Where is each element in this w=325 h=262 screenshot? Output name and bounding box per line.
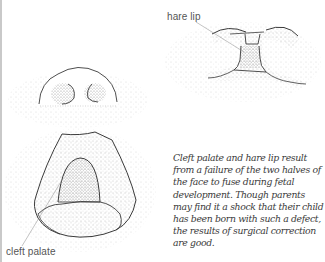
- cleft-palate-illustration: [4, 128, 156, 252]
- caption-text: Cleft palate and hare lip result from a …: [173, 152, 325, 250]
- hare-lip-label: hare lip: [167, 11, 201, 22]
- cleft-palate-label: cleft palate: [6, 246, 56, 257]
- hare-lip-illustration: [165, 22, 321, 102]
- nose-illustration: [8, 67, 148, 128]
